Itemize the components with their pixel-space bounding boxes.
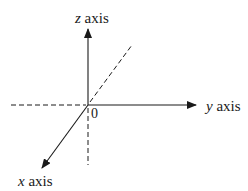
z-axis-word: axis xyxy=(81,10,109,26)
y-axis-word: axis xyxy=(213,98,241,114)
y-axis-label: y axis xyxy=(206,99,241,114)
x-axis-variable: x xyxy=(18,173,25,189)
origin-label: 0 xyxy=(91,107,98,121)
x-axis-label: x axis xyxy=(18,174,53,189)
z-axis-label: z axis xyxy=(75,11,109,26)
x-axis-negative-dashed xyxy=(90,45,132,102)
x-axis-word: axis xyxy=(25,173,53,189)
x-axis-line xyxy=(42,105,88,168)
y-axis-variable: y xyxy=(206,98,213,114)
axes-drawing xyxy=(0,0,248,191)
